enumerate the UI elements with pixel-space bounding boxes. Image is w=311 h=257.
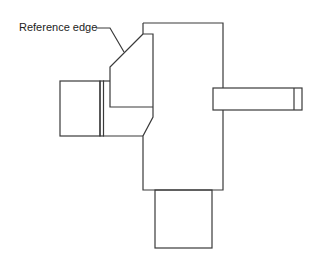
main-body-inner-left-edge bbox=[143, 23, 153, 107]
lower-angled-transition bbox=[143, 107, 153, 153]
reference-edge-leader-line bbox=[96, 28, 124, 52]
reference-edge-label: Reference edge bbox=[19, 21, 97, 33]
diagram-canvas: Reference edge bbox=[0, 0, 311, 257]
left-cylinder bbox=[60, 81, 100, 136]
angled-reference-block bbox=[110, 34, 153, 107]
main-body bbox=[143, 23, 223, 190]
bottom-block bbox=[155, 190, 212, 248]
right-arm bbox=[213, 88, 302, 110]
